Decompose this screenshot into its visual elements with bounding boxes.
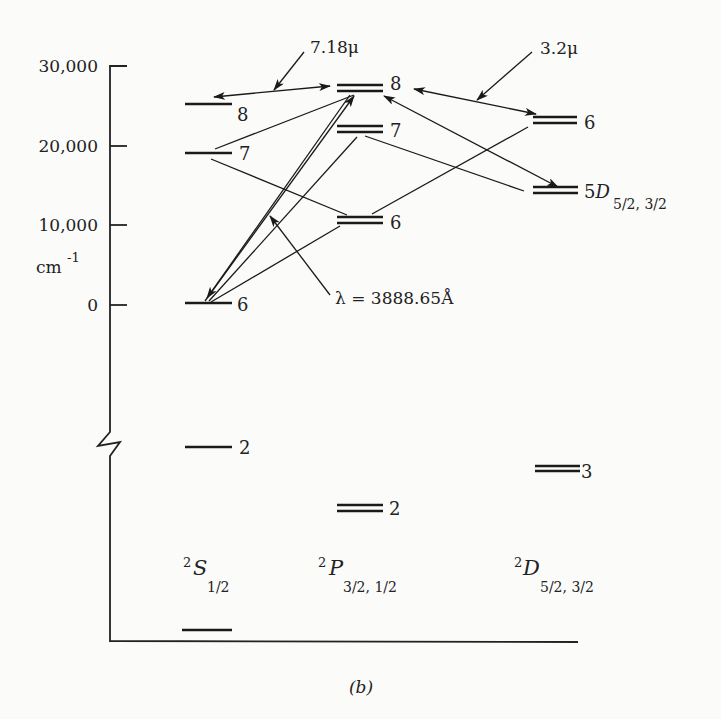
pointer-7-18-micron bbox=[274, 52, 304, 90]
label-d-5d-sub: 5/2, 3/2 bbox=[613, 196, 667, 212]
label-s-7: 7 bbox=[239, 143, 250, 164]
energy-level-diagram: 30,000 20,000 10,000 0 cm -1 8 7 6 2 8 7… bbox=[0, 0, 721, 719]
tick-label-30000: 30,000 bbox=[39, 56, 98, 76]
label-p-7: 7 bbox=[390, 120, 401, 141]
svg-text:2: 2 bbox=[183, 555, 191, 570]
label-s-8: 8 bbox=[237, 104, 248, 125]
annotation-3-2-micron: 3.2μ bbox=[540, 38, 578, 58]
y-axis-unit-exponent: -1 bbox=[67, 250, 80, 265]
svg-text:1/2: 1/2 bbox=[207, 579, 230, 595]
transition-p8-s6 bbox=[207, 95, 350, 298]
tick-label-10000: 10,000 bbox=[39, 215, 98, 235]
annotation-7-18-micron: 7.18μ bbox=[310, 37, 359, 57]
svg-text:D: D bbox=[522, 556, 540, 580]
svg-text:S: S bbox=[193, 556, 207, 580]
transitions bbox=[205, 86, 558, 302]
transition-s7-p8 bbox=[215, 95, 354, 149]
label-d-6: 6 bbox=[584, 112, 595, 133]
svg-text:3/2, 1/2: 3/2, 1/2 bbox=[343, 579, 397, 595]
svg-text:2: 2 bbox=[318, 555, 326, 570]
label-d-3: 3 bbox=[581, 461, 592, 482]
label-p-8: 8 bbox=[390, 73, 401, 94]
pointer-3-2-micron bbox=[477, 52, 532, 100]
term-symbols: 2 S 1/2 2 P 3/2, 1/2 2 D 5/2, 3/2 bbox=[183, 555, 594, 595]
annotation-3888-angstrom: λ = 3888.65Å bbox=[335, 288, 454, 308]
label-d-5d: 5D bbox=[584, 181, 610, 202]
term-s: 2 S 1/2 bbox=[183, 555, 230, 595]
tick-label-20000: 20,000 bbox=[39, 136, 98, 156]
label-s-6: 6 bbox=[237, 294, 248, 315]
transition-s8-p8 bbox=[214, 86, 330, 97]
pointer-3888-angstrom bbox=[270, 216, 330, 295]
label-p-6: 6 bbox=[390, 212, 401, 233]
transition-s7-p6 bbox=[211, 159, 347, 215]
y-tick-labels: 30,000 20,000 10,000 0 cm -1 bbox=[36, 56, 98, 315]
transition-s6-p8 bbox=[205, 96, 354, 301]
figure-caption: (b) bbox=[349, 677, 373, 697]
label-p-2: 2 bbox=[389, 498, 400, 519]
y-axis-unit: cm bbox=[36, 257, 62, 277]
svg-text:2: 2 bbox=[514, 555, 522, 570]
tick-label-0: 0 bbox=[87, 295, 98, 315]
transition-p7-s6 bbox=[209, 137, 357, 301]
term-p: 2 P 3/2, 1/2 bbox=[318, 555, 397, 595]
d-levels bbox=[533, 117, 580, 471]
term-d: 2 D 5/2, 3/2 bbox=[514, 555, 594, 595]
svg-text:5/2, 3/2: 5/2, 3/2 bbox=[540, 579, 594, 595]
svg-text:P: P bbox=[328, 556, 344, 580]
s-levels bbox=[182, 104, 232, 630]
transition-p7-d5 bbox=[365, 136, 524, 191]
transition-p8-d6 bbox=[414, 89, 536, 114]
label-s-2: 2 bbox=[239, 437, 250, 458]
